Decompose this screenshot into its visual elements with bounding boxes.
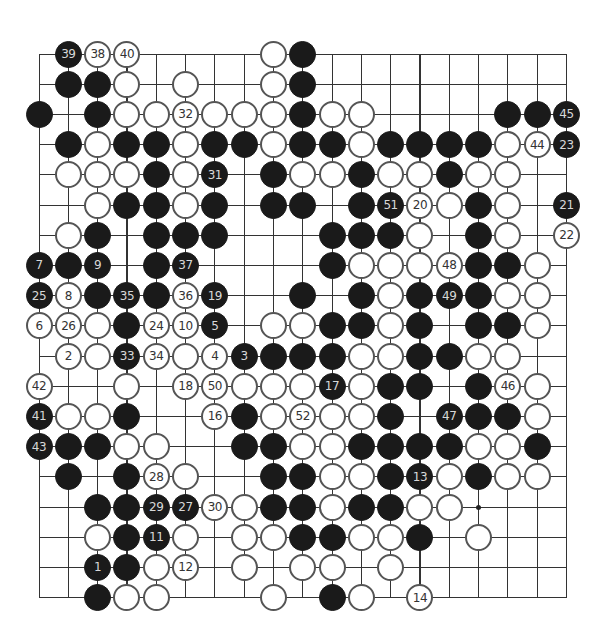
black-stone[interactable] [143,192,170,219]
white-stone[interactable] [172,192,199,219]
black-stone[interactable] [201,192,228,219]
white-stone[interactable] [465,433,492,460]
white-stone[interactable] [143,554,170,581]
black-stone[interactable] [406,433,433,460]
black-stone[interactable]: 39 [55,41,82,68]
black-stone[interactable] [201,222,228,249]
black-stone[interactable]: 47 [436,403,463,430]
black-stone[interactable] [377,494,404,521]
white-stone[interactable]: 50 [201,373,228,400]
white-stone[interactable] [319,433,346,460]
white-stone[interactable] [231,101,258,128]
white-stone[interactable] [348,101,375,128]
white-stone[interactable]: 40 [113,41,140,68]
black-stone[interactable] [406,131,433,158]
white-stone[interactable] [84,524,111,551]
black-stone[interactable] [348,433,375,460]
black-stone[interactable] [406,282,433,309]
white-stone[interactable] [260,403,287,430]
white-stone[interactable] [319,161,346,188]
black-stone[interactable] [494,312,521,339]
white-stone[interactable] [143,433,170,460]
black-stone[interactable] [465,282,492,309]
black-stone[interactable] [55,463,82,490]
white-stone[interactable] [231,554,258,581]
black-stone[interactable] [260,343,287,370]
black-stone[interactable] [406,312,433,339]
white-stone[interactable] [260,524,287,551]
white-stone[interactable] [113,101,140,128]
white-stone[interactable] [289,554,316,581]
white-stone[interactable] [260,71,287,98]
black-stone[interactable] [84,494,111,521]
black-stone[interactable] [494,403,521,430]
white-stone[interactable] [260,131,287,158]
black-stone[interactable] [494,101,521,128]
white-stone[interactable] [319,101,346,128]
white-stone[interactable] [84,161,111,188]
black-stone[interactable] [289,463,316,490]
white-stone[interactable] [348,403,375,430]
black-stone[interactable] [319,524,346,551]
black-stone[interactable]: 25 [26,282,53,309]
white-stone[interactable] [113,433,140,460]
white-stone[interactable] [494,192,521,219]
white-stone[interactable] [494,222,521,249]
black-stone[interactable]: 23 [553,131,580,158]
black-stone[interactable]: 31 [201,161,228,188]
white-stone[interactable] [348,584,375,611]
black-stone[interactable] [465,373,492,400]
black-stone[interactable] [172,222,199,249]
white-stone[interactable] [201,101,228,128]
white-stone[interactable]: 2 [55,343,82,370]
black-stone[interactable] [143,161,170,188]
black-stone[interactable] [319,584,346,611]
white-stone[interactable]: 26 [55,312,82,339]
white-stone[interactable]: 24 [143,312,170,339]
black-stone[interactable] [377,403,404,430]
black-stone[interactable] [231,131,258,158]
black-stone[interactable] [289,524,316,551]
black-stone[interactable]: 9 [84,252,111,279]
black-stone[interactable] [406,524,433,551]
black-stone[interactable] [406,373,433,400]
black-stone[interactable] [260,463,287,490]
black-stone[interactable] [84,71,111,98]
white-stone[interactable] [113,161,140,188]
black-stone[interactable]: 33 [113,343,140,370]
white-stone[interactable] [113,584,140,611]
black-stone[interactable] [289,101,316,128]
black-stone[interactable]: 17 [319,373,346,400]
black-stone[interactable] [348,222,375,249]
black-stone[interactable] [348,494,375,521]
black-stone[interactable] [348,192,375,219]
white-stone[interactable] [55,222,82,249]
black-stone[interactable] [465,222,492,249]
black-stone[interactable]: 49 [436,282,463,309]
black-stone[interactable]: 41 [26,403,53,430]
black-stone[interactable] [465,192,492,219]
white-stone[interactable]: 38 [84,41,111,68]
black-stone[interactable] [348,282,375,309]
black-stone[interactable] [465,252,492,279]
white-stone[interactable] [113,373,140,400]
white-stone[interactable]: 46 [494,373,521,400]
black-stone[interactable] [406,343,433,370]
black-stone[interactable] [143,222,170,249]
white-stone[interactable] [348,463,375,490]
black-stone[interactable] [524,433,551,460]
black-stone[interactable] [377,433,404,460]
black-stone[interactable] [143,282,170,309]
white-stone[interactable] [260,584,287,611]
white-stone[interactable] [436,192,463,219]
black-stone[interactable] [55,252,82,279]
white-stone[interactable]: 52 [289,403,316,430]
black-stone[interactable] [113,494,140,521]
black-stone[interactable]: 11 [143,524,170,551]
white-stone[interactable] [348,131,375,158]
white-stone[interactable]: 36 [172,282,199,309]
black-stone[interactable] [260,494,287,521]
black-stone[interactable] [289,41,316,68]
black-stone[interactable] [26,101,53,128]
black-stone[interactable] [319,131,346,158]
